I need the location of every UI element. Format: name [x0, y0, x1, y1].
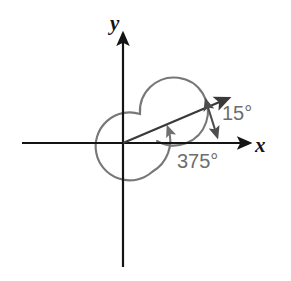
y-axis-label: y	[107, 11, 120, 35]
rotation-angle-label: 375°	[177, 150, 218, 172]
x-axis-label: x	[254, 133, 266, 157]
angle-diagram-figure: y x 15° 375°	[0, 0, 291, 281]
coordinate-plane-svg: y x 15° 375°	[0, 0, 291, 281]
outer-angle-label: 15°	[222, 102, 252, 124]
